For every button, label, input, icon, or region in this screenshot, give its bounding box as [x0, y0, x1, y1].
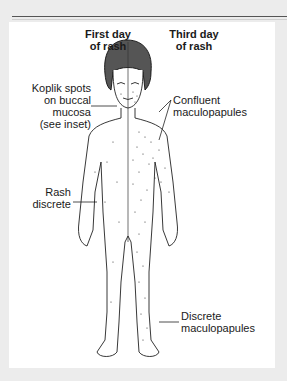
label-koplik-spots: Koplik spots on buccal mucosa (see inset…: [9, 82, 91, 130]
header-first-day: First day of rash: [63, 28, 153, 52]
header-third-day: Third day of rash: [149, 28, 239, 52]
label-confluent-maculopapules: Confluent maculopapules: [173, 94, 273, 118]
top-rule-secondary: [12, 19, 287, 20]
figure-panel: First day of rash Third day of rash Kopl…: [9, 22, 275, 368]
label-discrete-maculopapules: Discrete maculopapules: [181, 310, 275, 334]
top-rule: [12, 16, 287, 17]
label-rash-discrete: Rash discrete: [9, 186, 71, 210]
